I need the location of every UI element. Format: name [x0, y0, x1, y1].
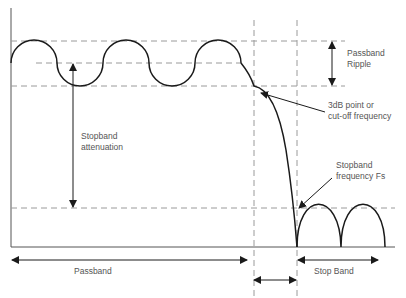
stopband-attenuation-line2: attenuation	[81, 142, 123, 153]
stopband-frequency-label: Stopband frequency Fs	[336, 160, 385, 182]
stopband-attenuation-label: Stopband attenuation	[81, 131, 123, 153]
cutoff-label: 3dB point or cut-off frequency	[328, 100, 391, 122]
passband-ripple-line1: Passband	[347, 48, 385, 59]
stopband-frequency-line2: frequency Fs	[336, 171, 385, 182]
cutoff-line2: cut-off frequency	[328, 111, 391, 122]
stopband-freq-pointer-arrow	[299, 178, 332, 208]
stop-band-label: Stop Band	[314, 266, 354, 277]
passband-label: Passband	[74, 266, 112, 277]
passband-ripple-label: Passband Ripple	[347, 48, 385, 70]
cutoff-line1: 3dB point or	[328, 100, 391, 111]
passband-ripple-line2: Ripple	[347, 59, 385, 70]
cutoff-pointer-arrow	[261, 93, 325, 112]
filter-response-diagram	[0, 0, 406, 298]
stopband-attenuation-line1: Stopband	[81, 131, 123, 142]
stopband-lobes	[297, 204, 385, 247]
stopband-frequency-line1: Stopband	[336, 160, 385, 171]
